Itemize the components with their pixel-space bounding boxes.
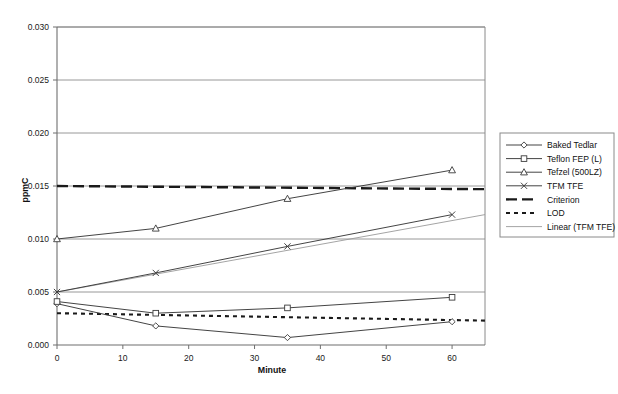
legend-label-lod: LOD bbox=[547, 208, 565, 218]
series-teflon-fep-l-pt2-square-marker bbox=[285, 305, 291, 311]
y-tick-label-3: 0.015 bbox=[28, 181, 50, 191]
y-axis-tick-labels: 0.0000.0050.0100.0150.0200.0250.030 bbox=[28, 22, 50, 350]
legend-label-tefzel-500lz: Tefzel (500LZ) bbox=[547, 167, 602, 177]
y-axis-ticks-group bbox=[53, 27, 57, 345]
x-tick-label-2: 20 bbox=[184, 353, 194, 363]
x-tick-label-4: 40 bbox=[316, 353, 326, 363]
legend-label-tfm-tfe: TFM TFE bbox=[547, 181, 583, 191]
legend-label-linear-tfm-tfe: Linear (TFM TFE) bbox=[547, 222, 615, 232]
chart-legend[interactable]: Baked TedlarTeflon FEP (L)Tefzel (500LZ)… bbox=[500, 133, 615, 237]
legend-label-criterion: Criterion bbox=[547, 195, 580, 205]
x-axis-title: Minute bbox=[258, 365, 286, 375]
x-axis-tick-labels: 0102030405060 bbox=[55, 353, 457, 363]
x-tick-label-5: 50 bbox=[381, 353, 391, 363]
y-tick-label-4: 0.020 bbox=[28, 128, 50, 138]
x-tick-label-0: 0 bbox=[55, 353, 60, 363]
x-tick-label-1: 10 bbox=[118, 353, 128, 363]
legend-teflon-fep-l-square-marker bbox=[521, 156, 527, 162]
y-tick-label-5: 0.025 bbox=[28, 75, 50, 85]
legend-label-baked-tedlar: Baked Tedlar bbox=[547, 140, 597, 150]
series-teflon-fep-l-pt0-square-marker bbox=[54, 299, 60, 305]
chart-container: 0.0000.0050.0100.0150.0200.0250.030 0102… bbox=[0, 0, 618, 394]
y-axis-title: ppmC bbox=[20, 177, 30, 203]
y-tick-label-0: 0.000 bbox=[28, 340, 50, 350]
y-tick-label-2: 0.010 bbox=[28, 234, 50, 244]
x-axis-ticks-group bbox=[57, 345, 452, 349]
series-teflon-fep-l-pt1-square-marker bbox=[153, 310, 159, 316]
x-tick-label-3: 30 bbox=[250, 353, 260, 363]
legend-label-teflon-fep-l: Teflon FEP (L) bbox=[547, 154, 602, 164]
y-tick-label-6: 0.030 bbox=[28, 22, 50, 32]
x-tick-label-6: 60 bbox=[447, 353, 457, 363]
series-teflon-fep-l-pt3-square-marker bbox=[449, 295, 455, 301]
chart-canvas: 0.0000.0050.0100.0150.0200.0250.030 0102… bbox=[0, 0, 618, 394]
y-tick-label-1: 0.005 bbox=[28, 287, 50, 297]
